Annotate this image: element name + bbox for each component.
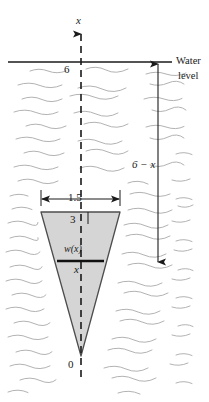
water-level-label-line1: Water — [176, 55, 201, 67]
strip-depth-label: x — [74, 263, 79, 275]
water-level-label-line2: level — [178, 70, 198, 82]
figure-container: x 6 Water level 6 − x 1.5 3 w(x) x 0 — [0, 0, 209, 402]
strip-width-label: w(x) — [64, 243, 82, 254]
depth-expression-label: 6 − x — [132, 158, 155, 170]
top-width-label: 1.5 — [68, 191, 82, 203]
water-level-value-label: 6 — [64, 63, 70, 75]
cone-height-label: 3 — [70, 213, 76, 225]
axis-label-x: x — [76, 14, 81, 26]
origin-label: 0 — [68, 358, 74, 370]
